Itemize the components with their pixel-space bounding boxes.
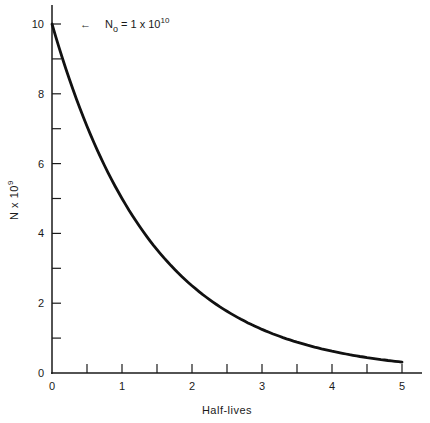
x-tick-label: 5 [399,380,405,392]
x-tick-label: 4 [329,380,335,392]
y-tick-label: 10 [32,18,44,30]
x-ticks: 012345 [49,364,405,392]
decay-chart: 012345 0246810 ← No = 1 x 1010 Half-live… [0,0,430,423]
decay-curve [52,24,402,362]
y-tick-label: 2 [38,297,44,309]
x-axis-title: Half-lives [202,404,252,416]
y-tick-label: 6 [38,158,44,170]
annotation-text: No = 1 x 1010 [105,16,170,34]
y-ticks: 0246810 [32,18,61,379]
y-tick-label: 0 [38,367,44,379]
x-tick-label: 3 [259,380,265,392]
y-tick-label: 4 [38,227,44,239]
x-tick-label: 1 [119,380,125,392]
y-tick-label: 8 [38,88,44,100]
y-axis-title: N x 109 [6,180,20,220]
x-tick-label: 2 [189,380,195,392]
x-tick-label: 0 [49,380,55,392]
annotation-arrow: ← [80,18,91,30]
